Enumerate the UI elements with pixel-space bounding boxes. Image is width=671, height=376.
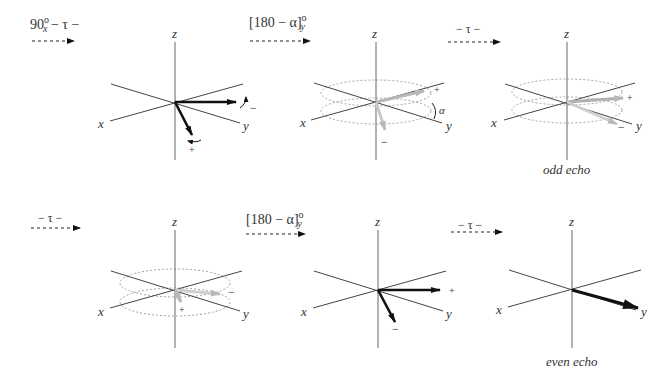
svg-text:y: y [634,118,642,133]
panel-1: z x y − + [97,26,257,160]
svg-text:z: z [568,214,574,229]
angle-arc [432,103,436,119]
step-arrows [31,41,502,234]
spin-echo-diagram: z x y − + α z x y + − [0,0,671,376]
faded-vector-minus [567,102,617,124]
panel-2: α z x y + − [299,26,452,160]
svg-text:x: x [495,302,502,317]
svg-text:+: + [434,84,440,95]
svg-text:x: x [490,115,497,130]
svg-text:y: y [444,118,452,133]
svg-text:−: − [250,101,257,115]
faded-vector-plus [567,98,623,102]
svg-text:−: − [618,120,625,134]
svg-text:+: + [179,304,185,315]
svg-text:+: + [449,285,455,296]
svg-text:x: x [299,115,306,130]
svg-text:+: + [189,144,195,155]
svg-text:x: x [97,116,104,131]
panel-6: z x y [495,214,647,348]
svg-text:−: − [381,135,388,149]
svg-text:z: z [171,26,177,41]
rotation-arrow-icon [188,140,201,142]
svg-text:y: y [444,306,452,321]
panel-4: z x y + − [97,214,249,348]
svg-text:z: z [563,26,569,41]
svg-text:y: y [241,118,249,133]
faded-vector-plus [376,91,424,102]
svg-text:z: z [374,214,380,229]
magnetization-vector-minus [378,290,395,322]
magnetization-vector-b [175,102,192,135]
svg-text:x: x [97,304,104,319]
svg-text:−: − [228,285,235,299]
panel-3: z x y + − [490,26,642,160]
svg-text:+: + [627,92,633,103]
svg-text:z: z [371,26,377,41]
refocused-vector [572,290,638,308]
panel-5: z x y + − [300,214,455,348]
svg-text:x: x [300,304,307,319]
rotation-arrow-icon [240,97,246,108]
svg-text:−: − [392,322,399,336]
svg-text:α: α [439,104,445,116]
svg-text:y: y [639,304,647,319]
svg-text:y: y [241,306,249,321]
svg-text:z: z [171,214,177,229]
